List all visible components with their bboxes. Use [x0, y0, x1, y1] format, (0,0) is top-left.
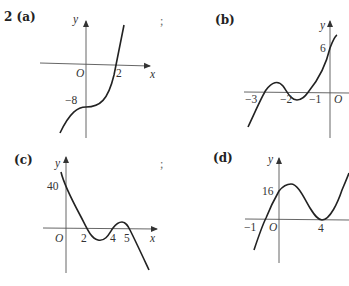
y-intercept-label: 16 — [262, 185, 274, 197]
tick-label-neg1: −1 — [309, 93, 321, 105]
origin-label: O — [334, 93, 343, 105]
y-axis-label: y — [54, 157, 61, 170]
curve-c — [61, 172, 149, 270]
origin-label: O — [76, 67, 85, 79]
graph-b-label: (b) — [215, 13, 235, 27]
tick-label-neg2: −2 — [280, 93, 292, 105]
graph-c-label: (c) — [14, 153, 33, 167]
x-axis — [245, 219, 349, 220]
y-axis-label: y — [319, 19, 326, 32]
separator: ; — [160, 14, 163, 28]
y-intercept-label: −8 — [65, 94, 77, 106]
graph-b: (b) y 6 −3 −2 −1 O — [215, 13, 349, 138]
y-axis-label: y — [267, 153, 274, 166]
graph-d-label: (d) — [213, 151, 233, 165]
tick-label-5: 5 — [124, 232, 130, 244]
y-intercept-label: 40 — [47, 180, 59, 192]
separator: ; — [160, 157, 163, 171]
question-number: 2 (a) — [4, 10, 36, 24]
x-axis — [40, 63, 150, 66]
tick-label-2: 2 — [81, 232, 87, 244]
tick-label-neg3: −3 — [245, 93, 257, 105]
origin-label: O — [55, 232, 64, 244]
curve-a — [60, 25, 124, 133]
graph-a: 2 (a) ; y O 2 x −8 — [4, 10, 163, 138]
y-intercept-label: 6 — [320, 42, 326, 54]
figure-canvas: 2 (a) ; y O 2 x −8 (b) y 6 −3 −2 −1 O (c… — [0, 0, 349, 286]
x-intercept-label: 2 — [116, 67, 122, 79]
y-axis-label: y — [72, 13, 79, 26]
graph-d: (d) y 16 −1 O 4 — [213, 151, 349, 263]
tick-label-4: 4 — [318, 222, 324, 234]
x-axis — [43, 228, 157, 229]
x-axis-label: x — [149, 232, 156, 244]
x-axis-label: x — [149, 68, 156, 80]
origin-label: O — [269, 221, 278, 233]
tick-label-4: 4 — [110, 232, 116, 244]
tick-label-neg1: −1 — [244, 221, 256, 233]
graph-c: (c) ; y 40 O 2 4 5 x — [14, 153, 163, 273]
